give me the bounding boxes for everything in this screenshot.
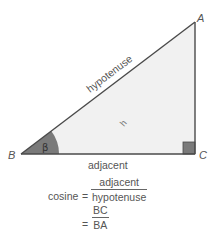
fraction-2-denominator: BA [92,219,108,231]
adjacent-label: adjacent [88,160,128,171]
vertex-b-label: B [8,150,15,161]
equals-sign-2: = [82,218,88,230]
vertex-c-label: C [199,150,207,161]
fraction-adjacent-over-hypotenuse: adjacent hypotenuse [91,176,147,203]
fraction-1-numerator: adjacent [98,176,140,188]
fraction-2-bar [92,217,109,218]
equals-sign-1: = [82,190,88,202]
fraction-1-bar [91,189,147,190]
vertex-a-label: A [197,13,204,24]
angle-beta-label: β [42,142,48,153]
cosine-label: cosine [48,190,78,202]
fraction-bc-over-ba: BC BA [92,204,109,231]
fraction-1-denominator: hypotenuse [91,191,147,203]
fraction-2-numerator: BC [92,204,109,216]
right-angle-marker [183,142,195,154]
